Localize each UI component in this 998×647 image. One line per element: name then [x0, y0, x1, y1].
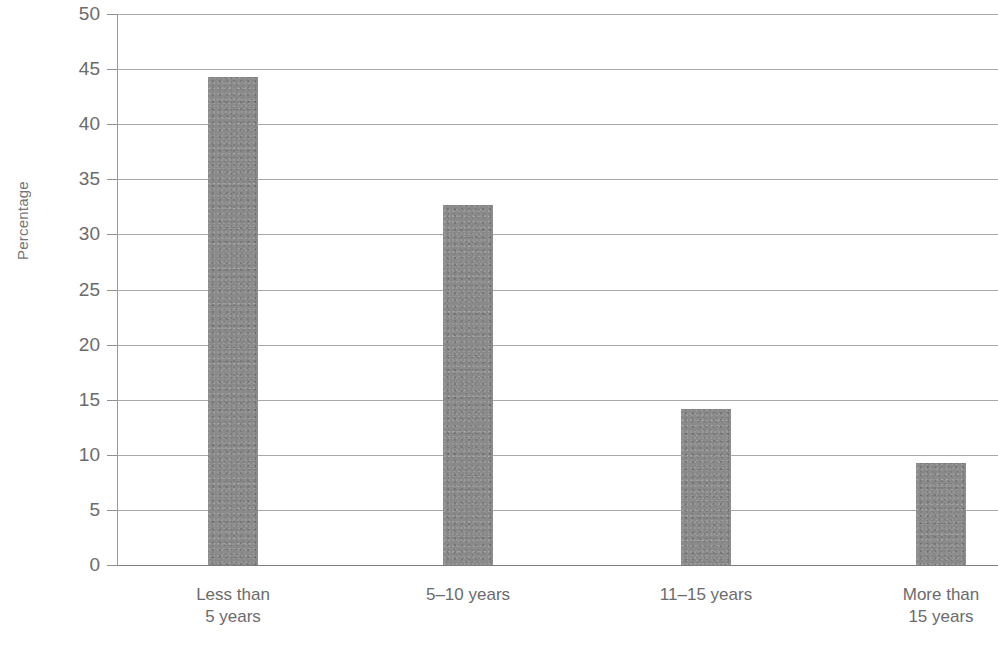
y-axis-tickmark: [107, 565, 118, 566]
bar: [208, 77, 258, 565]
gridline: [117, 69, 998, 70]
bar-chart: Percentage 05101520253035404550 Less tha…: [0, 0, 998, 647]
y-axis-tick-label: 35: [60, 169, 100, 188]
y-axis-tick-label: 5: [60, 500, 100, 519]
y-axis-tick-label: 10: [60, 445, 100, 464]
y-axis-tick-label: 25: [60, 280, 100, 299]
x-axis-tick-label: More than 15 years: [846, 584, 998, 628]
y-axis-tick-label: 50: [60, 4, 100, 23]
y-axis-title: Percentage: [14, 161, 31, 281]
x-axis-tick-label: 11–15 years: [611, 584, 801, 606]
y-axis-tick-label: 15: [60, 390, 100, 409]
x-axis-tick-label: 5–10 years: [373, 584, 563, 606]
y-axis-tick-label: 20: [60, 335, 100, 354]
y-axis-line: [117, 14, 118, 565]
y-axis-tick-label: 30: [60, 224, 100, 243]
y-axis-tick-label: 40: [60, 114, 100, 133]
x-axis-tick-label: Less than 5 years: [138, 584, 328, 628]
x-axis-baseline: [117, 565, 998, 566]
bar: [443, 205, 493, 565]
y-axis-tick-label: 0: [60, 555, 100, 574]
bar: [916, 463, 966, 565]
gridline: [117, 14, 998, 15]
y-axis-tick-label: 45: [60, 59, 100, 78]
bar: [681, 409, 731, 565]
